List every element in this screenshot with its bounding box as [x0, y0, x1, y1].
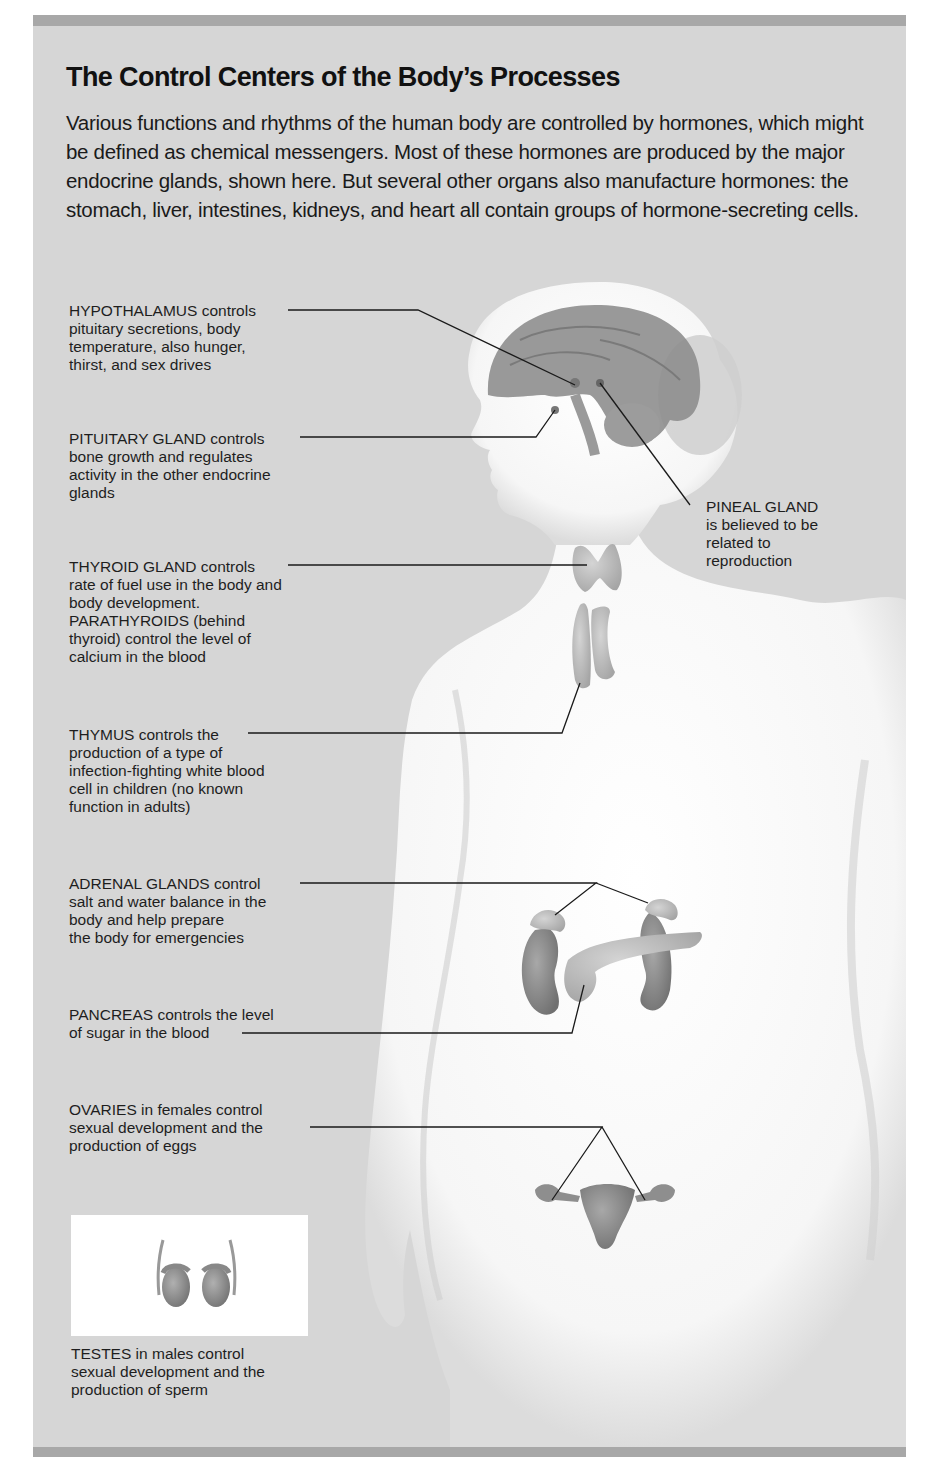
- label-pineal-gland: PINEAL GLAND is believed to be related t…: [706, 498, 818, 570]
- body-silhouette: [365, 282, 906, 1447]
- label-pancreas: PANCREAS controls the level of sugar in …: [69, 1006, 274, 1042]
- label-hypothalamus: HYPOTHALAMUS controls pituitary secretio…: [69, 302, 256, 374]
- label-testes: TESTES in males control sexual developme…: [71, 1345, 265, 1399]
- label-pituitary-gland: PITUITARY GLAND controls bone growth and…: [69, 430, 271, 502]
- label-ovaries: OVARIES in females control sexual develo…: [69, 1101, 263, 1155]
- label-thymus: THYMUS controls the production of a type…: [69, 726, 265, 816]
- testes-inset: [71, 1215, 308, 1336]
- testes-illustration: [71, 1215, 308, 1336]
- label-thyroid-gland: THYROID GLAND controls rate of fuel use …: [69, 558, 282, 666]
- label-adrenal-glands: ADRENAL GLANDS control salt and water ba…: [69, 875, 266, 947]
